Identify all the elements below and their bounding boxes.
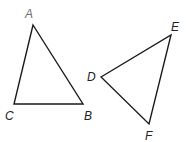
vertex-label-f: F [145, 129, 153, 142]
vertex-label-e: E [171, 20, 180, 34]
vertex-label-c: C [5, 109, 14, 123]
vertex-label-a: A [24, 7, 33, 21]
triangle-def [101, 35, 171, 124]
triangles-diagram: A B C D E F [0, 0, 189, 142]
vertex-label-d: D [87, 70, 96, 84]
triangle-abc [14, 25, 83, 104]
vertex-label-b: B [84, 109, 92, 123]
